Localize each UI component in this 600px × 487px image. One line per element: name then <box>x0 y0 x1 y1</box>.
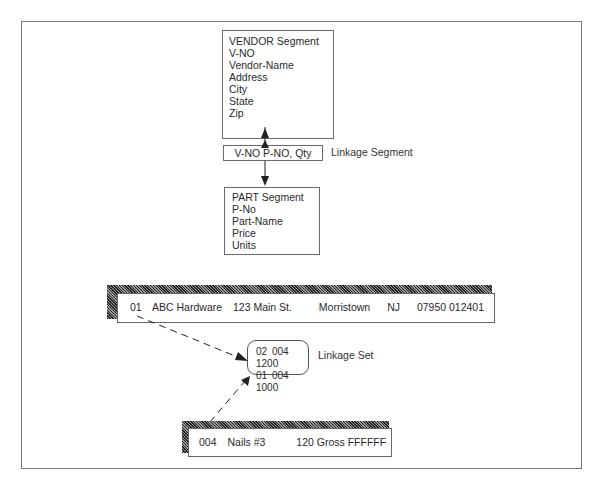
dashed-arrow-icon <box>210 381 245 422</box>
connector-arrows <box>0 0 600 487</box>
dashed-arrow-icon <box>137 316 240 358</box>
